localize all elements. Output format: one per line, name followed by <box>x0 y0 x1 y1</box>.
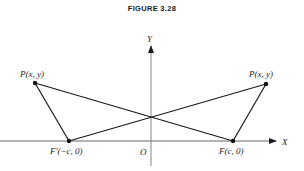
point-p-left <box>33 81 37 85</box>
segment-pright-fprime <box>69 84 266 141</box>
segment-pleft-f <box>35 83 233 141</box>
label-f: F(c, 0) <box>218 146 244 156</box>
point-f <box>231 139 235 143</box>
point-p-right <box>264 82 268 86</box>
label-p-right: P(x, y) <box>248 69 273 79</box>
label-origin: O <box>140 147 147 157</box>
label-f-prime: F′(−c, 0) <box>49 146 83 156</box>
label-y-axis: Y <box>147 34 153 44</box>
label-p-left: P(x, y) <box>19 69 44 79</box>
point-f-prime <box>67 139 71 143</box>
ellipse-foci-diagram: P(x, y) P(x, y) F′(−c, 0) F(c, 0) O X Y <box>0 0 304 171</box>
label-x-axis: X <box>281 137 288 147</box>
